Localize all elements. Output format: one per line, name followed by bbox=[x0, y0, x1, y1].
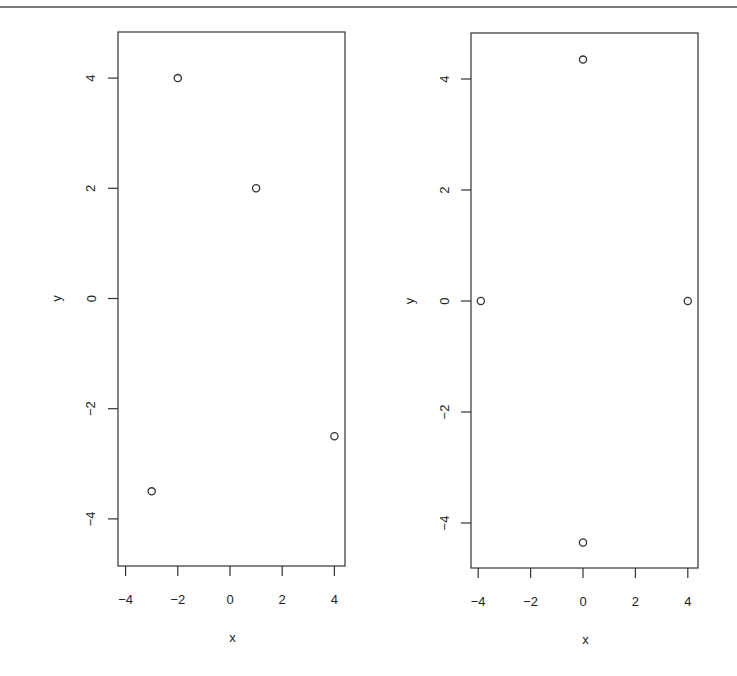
x-tick-label: −4 bbox=[471, 594, 486, 609]
data-point-marker bbox=[477, 297, 484, 304]
y-tick-label: −2 bbox=[84, 401, 99, 416]
data-point-marker bbox=[253, 185, 260, 192]
y-axis-title: y bbox=[49, 295, 64, 302]
x-tick-label: 4 bbox=[331, 592, 338, 607]
x-tick-label: −4 bbox=[118, 592, 133, 607]
y-axis-title: y bbox=[402, 297, 417, 304]
y-tick-label: 0 bbox=[84, 295, 99, 302]
y-tick-label: 2 bbox=[437, 186, 452, 193]
x-tick-label: 2 bbox=[632, 594, 639, 609]
y-tick-label: 2 bbox=[84, 185, 99, 192]
data-point-marker bbox=[579, 539, 586, 546]
x-tick-label: −2 bbox=[523, 594, 538, 609]
plot-area-box bbox=[471, 33, 698, 568]
scatter-panel-left: −4−2024−4−2024xy bbox=[49, 32, 346, 645]
data-point-marker bbox=[684, 297, 691, 304]
y-tick-label: −2 bbox=[437, 405, 452, 420]
x-tick-label: 0 bbox=[226, 592, 233, 607]
scatter-panel-right: −4−2024−4−2024xy bbox=[402, 33, 699, 647]
data-point-marker bbox=[148, 488, 155, 495]
y-tick-label: 0 bbox=[437, 297, 452, 304]
y-tick-label: −4 bbox=[437, 516, 452, 531]
y-tick-label: 4 bbox=[84, 74, 99, 81]
plot-area-box bbox=[118, 32, 345, 566]
x-axis-title: x bbox=[229, 630, 236, 645]
data-point-marker bbox=[174, 75, 181, 82]
x-axis-title: x bbox=[582, 632, 589, 647]
x-tick-label: 2 bbox=[279, 592, 286, 607]
data-point-marker bbox=[331, 433, 338, 440]
y-tick-label: −4 bbox=[84, 511, 99, 526]
x-tick-label: 4 bbox=[684, 594, 691, 609]
x-tick-label: −2 bbox=[170, 592, 185, 607]
y-tick-label: 4 bbox=[437, 75, 452, 82]
x-tick-label: 0 bbox=[579, 594, 586, 609]
scatter-figure: −4−2024−4−2024xy −4−2024−4−2024xy bbox=[0, 0, 737, 676]
data-point-marker bbox=[579, 56, 586, 63]
